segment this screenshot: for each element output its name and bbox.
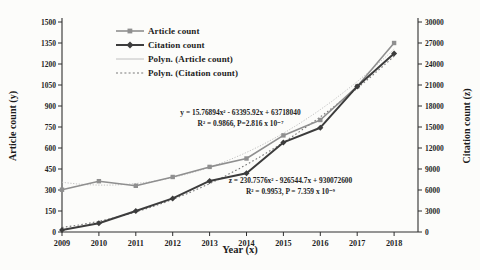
tick-label: 1050 (41, 81, 56, 90)
tick-label: 3000 (425, 207, 440, 216)
tick-label: 30000 (425, 18, 444, 27)
data-point (133, 208, 139, 214)
square-marker-icon (128, 29, 133, 34)
tick-label: 24000 (425, 60, 444, 69)
tick-label: 450 (45, 165, 57, 174)
chart-figure: 0150300450600750900105012001350150003000… (0, 0, 480, 270)
citation-trend-equation: z = 230.7576x² - 926544.7x + 930072600 R… (183, 175, 398, 197)
article-count-line-icon (116, 26, 144, 36)
tick-label: 0 (425, 228, 429, 237)
data-point (392, 41, 396, 45)
data-point (97, 179, 101, 183)
legend-item-article-count: Article count (116, 24, 238, 38)
tick-label: 9000 (425, 165, 440, 174)
tick-label: 18000 (425, 102, 444, 111)
legend-label-polyn-article: Polyn. (Article count) (148, 54, 233, 64)
polyn-article-line-icon (116, 54, 144, 64)
tick-label: 21000 (425, 81, 444, 90)
tick-label: 15000 (425, 123, 444, 132)
data-point (134, 184, 138, 188)
x-axis-title: Year (x) (0, 244, 480, 255)
tick-label: 27000 (425, 39, 444, 48)
diamond-marker-icon (127, 42, 134, 49)
trend-polyn-citation-count (62, 56, 394, 227)
citation-equation-line: z = 230.7576x² - 926544.7x + 930072600 (183, 175, 398, 186)
data-point (281, 133, 285, 137)
article-equation-line: y = 15.76894x² - 63395.92x + 63718040 (148, 107, 333, 118)
tick-label: 6000 (425, 186, 440, 195)
polyn-citation-dotted-line-icon (116, 68, 144, 78)
tick-label: 1350 (41, 39, 56, 48)
data-point (60, 188, 64, 192)
data-point (244, 156, 248, 160)
chart-legend: Article count Citation count Polyn. (Art… (116, 24, 238, 80)
legend-item-citation-count: Citation count (116, 38, 238, 52)
tick-label: 12000 (425, 144, 444, 153)
left-axis-ticks: 01503004506007509001050120013501500 (41, 18, 62, 237)
left-axis-title: Article count (y) (7, 91, 18, 161)
citation-equation-stats: R² = 0.9953, P = 7.359 x 10⁻⁹ (183, 186, 398, 197)
tick-label: 300 (45, 186, 57, 195)
legend-label-polyn-citation: Polyn. (Citation count) (148, 68, 238, 78)
legend-item-polyn-citation: Polyn. (Citation count) (116, 66, 238, 80)
tick-label: 750 (45, 123, 57, 132)
chart-canvas: 0150300450600750900105012001350150003000… (0, 0, 480, 270)
tick-label: 600 (45, 144, 57, 153)
article-equation-stats: R² = 0.9866, P=2.816 x 10⁻⁷ (148, 118, 333, 129)
right-axis-ticks: 0300060009000120001500018000210002400027… (418, 18, 444, 237)
tick-label: 900 (45, 102, 57, 111)
tick-label: 1200 (41, 60, 56, 69)
tick-label: 150 (45, 207, 57, 216)
tick-label: 1500 (41, 18, 56, 27)
data-point (171, 175, 175, 179)
legend-label-citation-count: Citation count (148, 40, 205, 50)
data-point (207, 165, 211, 169)
tick-label: 0 (52, 228, 56, 237)
right-axis-title: Citation count (z) (461, 89, 472, 164)
article-trend-equation: y = 15.76894x² - 63395.92x + 63718040 R²… (148, 107, 333, 129)
citation-count-line-icon (116, 40, 144, 50)
legend-label-article-count: Article count (148, 26, 200, 36)
legend-item-polyn-article: Polyn. (Article count) (116, 52, 238, 66)
